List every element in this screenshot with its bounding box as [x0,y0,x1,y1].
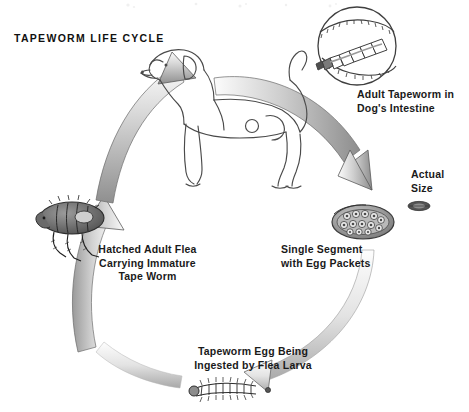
label-actual-size: Actual Size [411,168,469,195]
label-line: Ingested by Flea Larva [173,359,333,373]
intestine-inset-illustration [316,7,396,85]
label-line: Carrying Immature [85,257,210,271]
page-title: TAPEWORM LIFE CYCLE [14,32,165,44]
label-line: Dog's Intestine [357,102,469,116]
label-tapeworm-egg-ingested-by-flea-larva: Tapeworm Egg Being Ingested by Flea Larv… [173,345,333,372]
label-line: Size [411,182,469,196]
label-line: Hatched Adult Flea [85,243,210,257]
label-adult-tapeworm-in-dogs-intestine: Adult Tapeworm in Dog's Intestine [357,88,469,115]
label-line: Single Segment [281,243,393,257]
scan-artifact [126,3,337,8]
actual-size-segment-illustration [408,201,430,210]
figure-canvas: TAPEWORM LIFE CYCLE Adult Tapeworm in Do… [0,0,469,412]
label-line: Adult Tapeworm in [357,88,469,102]
label-line: Actual [411,168,469,182]
label-line: with Egg Packets [281,257,393,271]
label-single-segment-with-egg-packets: Single Segment with Egg Packets [281,243,393,270]
label-hatched-adult-flea: Hatched Adult Flea Carrying Immature Tap… [85,243,210,284]
label-line: Tapeworm Egg Being [173,345,333,359]
label-line: Tape Worm [85,270,210,284]
egg-segment-illustration [332,205,394,239]
arrow-dog-to-segment [214,77,372,190]
